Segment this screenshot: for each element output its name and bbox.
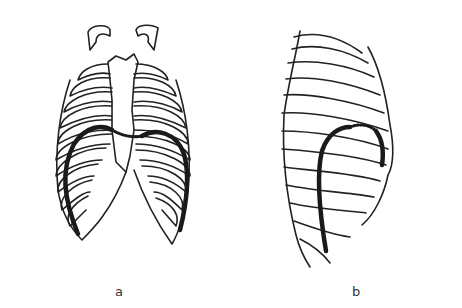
rib [282,149,386,165]
rib [288,62,374,77]
rib [284,167,380,181]
rib [284,95,384,113]
left-clavicle [88,26,110,50]
diaphragm-anterior [376,131,383,165]
rib [294,35,362,53]
rib-cage-lateral-drawing [270,15,420,280]
rib [290,203,366,213]
diaphragm-right-dome [142,132,187,230]
rib-cage-anterior-figure [30,20,210,270]
rib [286,185,374,197]
rib-cage-anterior-drawing [30,20,210,270]
right-clavicle [136,25,158,50]
rib [286,78,380,95]
panel-label-a: a [115,284,123,299]
diaphragm-posterior [319,127,350,251]
rib-cage-lateral-figure [270,15,420,280]
panel-label-b: b [352,284,360,299]
sternum [108,54,138,172]
rib [56,134,112,160]
